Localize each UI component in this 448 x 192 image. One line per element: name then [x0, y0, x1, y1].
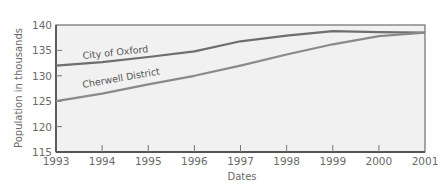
x-tick-label: 2000 [366, 155, 393, 167]
y-tick-label: 120 [32, 121, 52, 133]
x-tick-label: 1998 [273, 155, 300, 167]
y-tick-label: 125 [32, 95, 52, 107]
y-tick-label: 130 [32, 70, 52, 82]
y-axis-title: Population in thousands [13, 28, 24, 148]
x-tick-label: 1996 [181, 155, 208, 167]
x-tick-label: 1994 [89, 155, 116, 167]
x-tick-label: 1999 [319, 155, 346, 167]
y-tick-label: 135 [32, 44, 52, 56]
y-tick-label: 140 [32, 19, 52, 31]
x-tick-label: 1993 [43, 155, 70, 167]
x-axis-title: Dates [227, 171, 256, 182]
x-tick-label: 2001 [412, 155, 439, 167]
line-chart: 1151201251301351401993199419951996199719… [0, 0, 448, 192]
plot-area [56, 25, 425, 152]
x-tick-label: 1997 [227, 155, 254, 167]
x-tick-label: 1995 [135, 155, 162, 167]
